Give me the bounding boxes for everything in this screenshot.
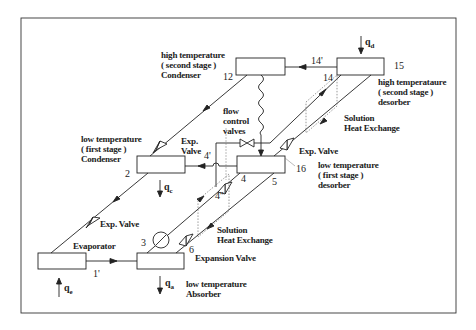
ht-condenser-box — [236, 58, 285, 75]
label-line: desorber — [318, 180, 379, 190]
q-subscript: e — [70, 288, 73, 296]
state-point-16: 16 — [296, 164, 306, 174]
label-line: flow — [223, 106, 249, 116]
heat-flow-qc: qc — [164, 181, 173, 195]
absorber-box — [137, 253, 184, 269]
exp-valve-lower-label: Exp. Valve — [100, 219, 139, 229]
label-line: Solution — [344, 113, 400, 123]
upper-shx-label: Solution Heat Exchange — [344, 113, 400, 133]
state-point-15: 15 — [394, 61, 404, 71]
state-point-4: 4 — [241, 174, 246, 184]
heat-flow-qe: qe — [64, 282, 73, 296]
state-point-4pp: 4'' — [215, 191, 224, 201]
evaporator-label: Evaporator — [73, 241, 116, 251]
state-point-3: 3 — [141, 238, 146, 248]
flow-control-valves-label: flow control valves — [223, 106, 249, 136]
label-line: valves — [223, 126, 249, 136]
state-point-1p: 1' — [93, 269, 100, 279]
label-line: Exp. — [181, 136, 201, 146]
q-subscript: d — [371, 42, 375, 50]
label-line: ( first stage ) — [81, 144, 142, 154]
label-line: low temperature — [318, 160, 379, 170]
label-line: low temperature — [81, 134, 142, 144]
expansion-valve-label: Expansion Valve — [195, 253, 256, 263]
ht-condenser-label: high temperature ( second stage ) Conden… — [161, 50, 225, 80]
heat-flow-qd: qd — [365, 36, 374, 50]
label-line: low temperature — [186, 279, 247, 289]
q-subscript: a — [171, 283, 175, 291]
label-line: Heat Exchange — [217, 235, 273, 245]
state-point-6: 6 — [189, 245, 194, 255]
label-line: ( second stage ) — [378, 87, 446, 97]
label-line: ( second stage ) — [161, 60, 225, 70]
label-line: Heat Exchange — [344, 123, 400, 133]
state-point-4p: 4' — [204, 151, 211, 161]
lt-desorber-box — [237, 156, 285, 173]
lt-condenser-label: low temperature ( first stage ) Condense… — [81, 134, 142, 164]
label-line: Valve — [181, 146, 201, 156]
label-line: high temperataure — [378, 77, 446, 87]
lt-condenser-box — [137, 156, 185, 173]
q-subscript: c — [170, 187, 173, 195]
state-point-14: 14 — [323, 73, 333, 83]
heat-flow-qa: qa — [165, 277, 174, 291]
lower-shx-label: Solution Heat Exchange — [217, 225, 273, 245]
label-line: desorber — [378, 97, 446, 107]
label-line: high temperature — [161, 50, 225, 60]
ht-desorber-box — [337, 58, 384, 75]
label-line: control — [223, 116, 249, 126]
label-line: Solution — [217, 225, 273, 235]
state-point-12: 12 — [223, 72, 233, 82]
state-point-5: 5 — [272, 177, 277, 187]
exp-valve-upper-label: Exp. Valve — [181, 136, 201, 156]
label-line: Condenser — [161, 70, 225, 80]
evaporator-box — [38, 253, 86, 269]
exp-valve-right-label: Exp. Valve — [299, 146, 338, 156]
absorber-label: low temperature Absorber — [186, 279, 247, 299]
label-line: Condenser — [81, 154, 142, 164]
label-line: Absorber — [186, 289, 247, 299]
state-point-2: 2 — [125, 169, 130, 179]
ht-desorber-label: high temperataure ( second stage ) desor… — [378, 77, 446, 107]
label-line: ( first stage ) — [318, 170, 379, 180]
state-point-14p: 14' — [311, 56, 323, 66]
lt-desorber-label: low temperature ( first stage ) desorber — [318, 160, 379, 190]
